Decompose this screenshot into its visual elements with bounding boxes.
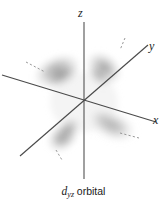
x-axis-label: x xyxy=(153,114,158,126)
figure-caption: dyzorbital xyxy=(0,186,167,199)
z-axis-label: z xyxy=(78,7,83,19)
caption-subscript: yz xyxy=(67,190,74,199)
orbital-figure: z y x dyzorbital xyxy=(0,0,167,209)
caption-word: orbital xyxy=(77,185,106,197)
y-axis-label: y xyxy=(149,40,154,52)
orbital-diagram xyxy=(0,0,167,209)
dashed-guide-upper-right xyxy=(120,38,125,50)
